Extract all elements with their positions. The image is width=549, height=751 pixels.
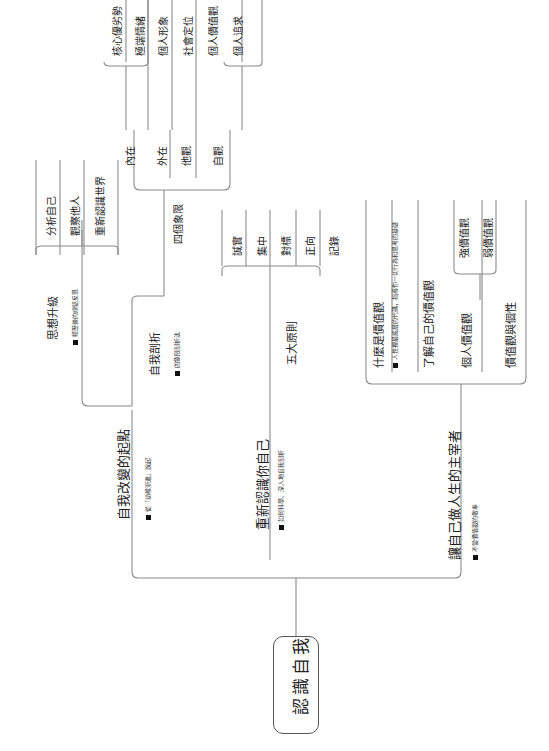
branch-reknow-yourself[interactable]: 重新認識你自己 — [252, 439, 271, 530]
bullet-square-icon — [473, 555, 478, 560]
node-observe-others[interactable]: 觀察他人 — [67, 196, 82, 236]
bullet-square-icon — [175, 371, 180, 376]
branch-master-of-life[interactable]: 讓自己做人生的主宰者 — [444, 430, 463, 560]
node-self-analysis[interactable]: 自我剖析 — [146, 332, 162, 376]
node-reunderstand-world[interactable]: 重新認識世界 — [92, 176, 107, 236]
node-others-view[interactable]: 他觀 — [178, 146, 193, 166]
leaf-positive[interactable]: 正向 — [302, 236, 317, 256]
node-thought-upgrade[interactable]: 思想升級 — [44, 296, 60, 340]
root-node[interactable]: 認識自我 — [273, 636, 319, 734]
node-analyze-self[interactable]: 分析自己 — [43, 196, 58, 236]
leaf-personal-image[interactable]: 個人形象 — [155, 16, 170, 56]
bullet-square-icon — [73, 340, 78, 345]
node-outer[interactable]: 外在 — [154, 146, 169, 166]
leaf-benchmark[interactable]: 對標 — [278, 236, 293, 256]
leaf-focus[interactable]: 集中 — [254, 236, 269, 256]
leaf-social-position[interactable]: 社會定位 — [180, 16, 195, 56]
leaf-extreme-emotions[interactable]: 極端情緒 — [132, 16, 147, 56]
node-what-is-values-note: 人性裡最底層的代碼，指導你一切行為和思考的基礎 — [390, 222, 399, 368]
node-thought-upgrade-note: 經歷後的總結反思 — [70, 289, 79, 345]
leaf-weak-values[interactable]: 弱價值觀 — [480, 218, 495, 258]
node-what-is-values[interactable]: 什麼是價值觀 — [370, 302, 386, 368]
leaf-honesty[interactable]: 誠實 — [229, 236, 244, 256]
node-understand-own-values[interactable]: 了解自己的價值觀 — [420, 280, 436, 368]
node-values-and-personality[interactable]: 價值觀與個性 — [502, 302, 518, 368]
bullet-square-icon — [279, 525, 284, 530]
node-personal-values[interactable]: 個人價值觀 — [458, 313, 474, 368]
node-self-analysis-note: 四象限剖析法 — [172, 332, 181, 376]
branch-reknow-yourself-note: 如何科學、深入地自我剖析 — [276, 450, 285, 530]
node-four-quadrants[interactable]: 四個象限 — [170, 204, 185, 244]
leaf-personal-values[interactable]: 個人價值觀 — [205, 6, 220, 56]
leaf-strong-values[interactable]: 強價值觀 — [456, 218, 471, 258]
leaf-personal-pursuit[interactable]: 個人追求 — [230, 16, 245, 56]
leaf-core-strengths[interactable]: 核心優劣勢 — [109, 6, 124, 56]
node-five-principles[interactable]: 五大原則 — [283, 321, 299, 365]
node-self-view[interactable]: 自觀 — [210, 146, 225, 166]
branch-master-of-life-note: 不當價值觀的敬奉 — [470, 504, 479, 560]
branch-self-change-start-note: 從「幼稚漸進」說起 — [143, 458, 152, 520]
root-label: 認識自我 — [287, 635, 312, 715]
connector-lines — [0, 0, 549, 751]
bullet-square-icon — [146, 515, 151, 520]
mind-map-canvas: 認識自我 自我改變的起點 從「幼稚漸進」說起 思想升級 經歷後的總結反思 分析自… — [0, 0, 549, 751]
node-inner[interactable]: 內在 — [122, 146, 137, 166]
bullet-square-icon — [393, 363, 398, 368]
branch-self-change-start[interactable]: 自我改變的起點 — [113, 429, 132, 520]
leaf-record[interactable]: 記錄 — [326, 236, 341, 256]
